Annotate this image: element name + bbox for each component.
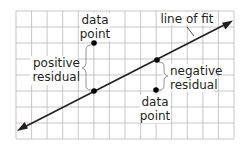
data-point-top-label-line2: point [80, 27, 111, 41]
negative-residual-label-line2: residual [170, 78, 218, 92]
data-point-bottom-label-line2: point [140, 109, 171, 123]
arrow-head-right-icon [222, 21, 233, 30]
data-point-below [153, 87, 159, 93]
positive-residual-label-line2: residual [32, 70, 80, 84]
positive-residual-brace [82, 45, 91, 90]
line-of-fit-leader [187, 27, 194, 36]
negative-residual-label-line1: negative [170, 64, 222, 78]
positive-residual-label-line1: positive [33, 56, 80, 70]
line-of-fit-label: line of fit [160, 12, 213, 26]
fit-point-left [91, 88, 97, 94]
residual-diagram: data point line of fit positive residual… [0, 0, 246, 146]
data-point-bottom-label-line1: data [141, 95, 168, 109]
data-point-above [91, 40, 97, 46]
data-point-top-label-line1: data [81, 13, 108, 27]
fit-point-right [154, 57, 160, 63]
